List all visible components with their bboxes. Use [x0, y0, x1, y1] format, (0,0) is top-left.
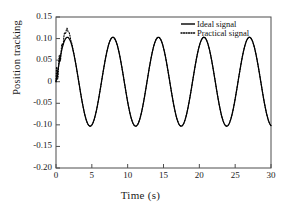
- x-tick-label: 15: [149, 170, 179, 180]
- y-axis-label: Position tracking: [11, 0, 22, 118]
- x-tick-label: 5: [77, 170, 107, 180]
- legend-label-practical-signal: Practical signal: [197, 28, 249, 38]
- x-tick-label: 10: [113, 170, 143, 180]
- x-tick-label: 20: [184, 170, 214, 180]
- x-tick-label: 25: [220, 170, 250, 180]
- y-tick-label: -0.15: [12, 140, 52, 150]
- y-tick-label: -0.10: [12, 119, 52, 129]
- x-axis-label: Time (s): [0, 189, 281, 201]
- y-tick-label: -0.20: [12, 162, 52, 172]
- chart-figure: 0510152025300.150.100.050-0.05-0.10-0.15…: [0, 0, 281, 203]
- x-tick-label: 30: [256, 170, 281, 180]
